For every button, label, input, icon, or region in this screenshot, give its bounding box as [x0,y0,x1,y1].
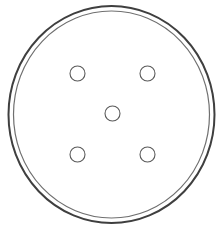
plate-diagram [0,0,222,233]
well-bottom-right [140,147,155,162]
well-center [105,106,120,121]
well-bottom-left [70,147,85,162]
well-top-left [70,66,85,81]
well-top-right [140,66,155,81]
